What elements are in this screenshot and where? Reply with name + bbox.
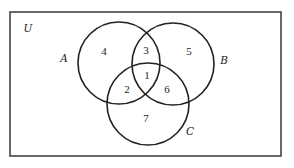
region-a-only: 4 — [101, 45, 107, 57]
venn-diagram: U A B C 4 3 5 1 2 6 7 — [0, 0, 294, 168]
region-b-and-c: 6 — [164, 83, 170, 95]
universe-label: U — [24, 22, 34, 34]
region-a-and-b: 3 — [143, 44, 149, 56]
set-a-label: A — [59, 52, 68, 64]
set-b-label: B — [219, 54, 228, 66]
set-c-label: C — [186, 125, 194, 137]
region-a-and-c: 2 — [124, 83, 130, 95]
set-b-circle — [132, 23, 214, 105]
region-a-b-c: 1 — [144, 69, 150, 81]
region-b-only: 5 — [186, 45, 192, 57]
region-c-only: 7 — [143, 112, 149, 124]
